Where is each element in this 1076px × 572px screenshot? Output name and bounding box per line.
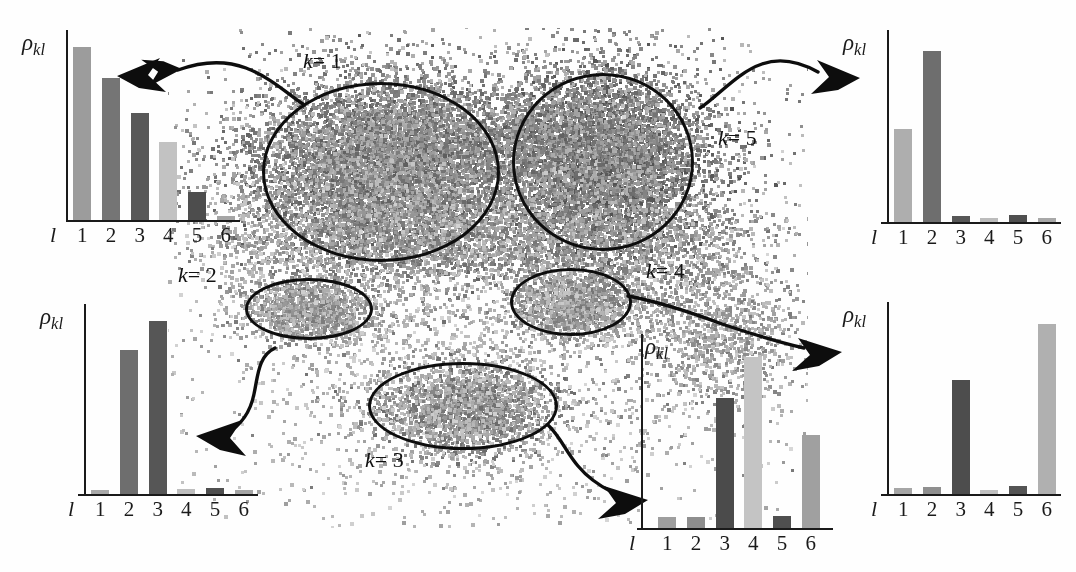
bar: [923, 487, 941, 494]
bar: [73, 47, 91, 220]
bars-group-k2: [86, 316, 258, 494]
bars-group-k4: [889, 316, 1061, 494]
rho-symbol: ρ: [22, 30, 33, 55]
y-axis-label-k1: ρkl: [22, 30, 45, 60]
x-axis-label-k4: l: [871, 496, 877, 522]
rho-subscript: kl: [854, 40, 866, 59]
bar: [206, 488, 224, 494]
y-axis-label-k4: ρkl: [843, 302, 866, 332]
rho-subscript: kl: [33, 40, 45, 59]
bar: [894, 129, 912, 222]
bar: [980, 490, 998, 494]
bars-group-k5: [889, 44, 1061, 222]
bar: [980, 218, 998, 222]
bar: [658, 517, 676, 528]
bars-group-k3: [653, 350, 825, 528]
x-tick-label: 2: [918, 225, 947, 250]
bar: [188, 192, 206, 220]
x-tick-label: 5: [1004, 497, 1033, 522]
x-tick-label: 1: [889, 225, 918, 250]
y-axis-line-k3: [641, 334, 643, 528]
x-tick-label: 6: [1032, 225, 1061, 250]
x-tick-label: 6: [1032, 497, 1061, 522]
cluster-label-k2-symbol: k: [178, 262, 188, 287]
bar: [687, 517, 705, 528]
x-tick-label: 2: [918, 497, 947, 522]
x-axis-line-k3: [637, 528, 833, 530]
x-axis-label-k2: l: [68, 496, 74, 522]
x-tick-label: 4: [975, 497, 1004, 522]
bar-chart-k3: ρkl l 123456: [637, 330, 853, 558]
cluster-label-k2-value: = 2: [188, 262, 217, 287]
x-axis-label-k1: l: [50, 222, 56, 248]
bar: [217, 216, 235, 220]
cluster-label-k5-symbol: k: [718, 125, 728, 150]
rho-subscript: kl: [854, 312, 866, 331]
cluster-label-k1: k= 1: [303, 48, 342, 74]
x-tick-label: 2: [97, 223, 126, 248]
bar-chart-k5: ρkl l 123456: [843, 24, 1059, 252]
bar: [923, 51, 941, 222]
y-axis-label-k5: ρkl: [843, 30, 866, 60]
bar: [1009, 486, 1027, 494]
bar: [1009, 215, 1027, 222]
bar: [952, 380, 970, 494]
cluster-label-k1-symbol: k: [303, 48, 313, 73]
bar: [952, 216, 970, 222]
x-axis-line-k5: [881, 222, 1061, 224]
x-tick-label: 1: [86, 497, 115, 522]
figure-root: k= 1 k= 5 k= 2 k= 4 k= 3: [0, 0, 1076, 572]
x-tick-label: 3: [710, 531, 739, 556]
x-tick-label: 1: [653, 531, 682, 556]
bar: [894, 488, 912, 494]
x-axis-line-k2: [78, 494, 258, 496]
x-tick-label: 3: [946, 497, 975, 522]
cluster-label-k1-value: = 1: [313, 48, 342, 73]
bar: [744, 357, 762, 528]
bar-chart-k4: ρkl l 123456: [843, 296, 1059, 524]
rho-symbol: ρ: [843, 30, 854, 55]
rho-symbol: ρ: [40, 304, 51, 329]
x-tick-label: 2: [115, 497, 144, 522]
bar: [131, 113, 149, 220]
cluster-ellipse-k2: [245, 278, 373, 340]
cluster-label-k3-value: = 3: [375, 447, 404, 472]
bar: [120, 350, 138, 494]
bar-chart-k1: ρkl l 123456: [22, 22, 238, 250]
x-tick-label: 1: [889, 497, 918, 522]
x-tick-label: 4: [975, 225, 1004, 250]
bar: [1038, 218, 1056, 222]
bar: [159, 142, 177, 220]
bar: [1038, 324, 1056, 494]
x-tick-label: 6: [211, 223, 240, 248]
x-tick-label: 5: [183, 223, 212, 248]
cluster-label-k3-symbol: k: [365, 447, 375, 472]
bar: [102, 78, 120, 220]
bar-chart-k2: ρkl l 123456: [40, 296, 256, 524]
x-tick-label: 3: [125, 223, 154, 248]
bar: [177, 489, 195, 494]
bar: [773, 516, 791, 528]
x-tick-label: 4: [154, 223, 183, 248]
bar: [91, 490, 109, 494]
cluster-label-k5: k= 5: [718, 125, 757, 151]
cluster-label-k4: k= 4: [646, 258, 685, 284]
x-tick-label: 3: [946, 225, 975, 250]
cluster-label-k3: k= 3: [365, 447, 404, 473]
cluster-ellipse-k1: [262, 82, 500, 262]
rho-symbol: ρ: [843, 302, 854, 327]
x-tick-label: 6: [229, 497, 258, 522]
y-axis-label-k2: ρkl: [40, 304, 63, 334]
x-tick-label: 5: [1004, 225, 1033, 250]
bars-group-k1: [68, 42, 240, 220]
cluster-ellipse-k4: [510, 268, 632, 336]
cluster-label-k5-value: = 5: [728, 125, 757, 150]
x-axis-label-k3: l: [629, 530, 635, 556]
x-axis-line-k1: [66, 220, 240, 222]
rho-subscript: kl: [51, 314, 63, 333]
cluster-label-k2: k= 2: [178, 262, 217, 288]
x-tick-label: 4: [739, 531, 768, 556]
cluster-label-k4-value: = 4: [656, 258, 685, 283]
bar: [235, 490, 253, 494]
x-tick-label: 1: [68, 223, 97, 248]
